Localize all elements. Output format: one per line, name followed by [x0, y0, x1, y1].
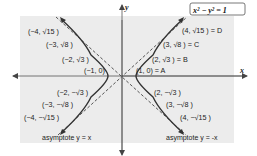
asymptote-label-y-eq-x: asymptote y = x	[42, 134, 92, 142]
point-label-neg4-neg-root15: (−4, −√15 )	[24, 113, 59, 122]
point-label-A: (1, 0) = A	[136, 66, 166, 75]
point-label-neg2-neg-root3: (−2, −√3 )	[57, 88, 88, 97]
asymptote-label-y-eq-neg-x: asymptote y = -x	[166, 134, 218, 142]
point-label-neg1-0: (−1, 0)	[84, 66, 105, 75]
equation-label: x² − y² = 1	[192, 6, 227, 15]
point-label-neg2-root3: (−2, √3 )	[62, 55, 89, 64]
x-axis-label: x	[239, 66, 244, 75]
point-label-2-neg-root3: (2, −√3 )	[154, 88, 181, 97]
point-label-3-neg-root8: (3, −√8 )	[166, 100, 193, 109]
point-label-4-neg-root15: (4, −√15 )	[180, 113, 211, 122]
point-label-B: (2, √3 ) = B	[152, 55, 188, 64]
point-label-D: (4, √15 ) = D	[182, 26, 222, 35]
point-label-neg3-root8: (−3, √8 )	[46, 40, 73, 49]
y-axis-label: y	[124, 3, 129, 12]
point-label-C: (3, √8 ) = C	[163, 40, 199, 49]
hyperbola-diagram: y x x² − y² = 1 (1, 0) = A (2, √3 ) = B …	[0, 0, 257, 156]
point-label-neg4-root15: (−4, √15 )	[28, 27, 59, 36]
point-label-neg3-neg-root8: (−3, −√8 )	[42, 100, 73, 109]
